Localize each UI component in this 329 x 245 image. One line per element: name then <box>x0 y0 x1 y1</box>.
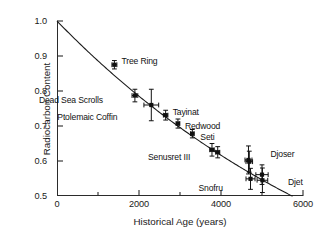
y-tick-label: 0.6 <box>35 156 47 166</box>
y-axis-ticks: 0.50.60.70.80.91.0 <box>0 21 52 196</box>
y-tick-label: 1.0 <box>35 16 47 26</box>
data-point-label: Ptolemaic Coffin <box>57 113 117 122</box>
data-point-label: Senusret III <box>148 153 190 162</box>
data-point-label: Dead Sea Scrolls <box>39 96 103 105</box>
y-tick-label: 0.5 <box>35 191 47 201</box>
data-point-label: Djet <box>288 178 303 187</box>
x-axis-label: Historical Age (years) <box>57 216 303 227</box>
data-point-label: Redwood <box>185 122 220 131</box>
x-tick-label: 6000 <box>293 199 313 209</box>
data-point-label: Djoser <box>270 150 294 159</box>
data-point-label: Tree Ring <box>121 57 157 66</box>
x-tick-label: 4000 <box>211 199 231 209</box>
y-tick-label: 0.9 <box>35 51 47 61</box>
y-tick-label: 0.7 <box>35 121 47 131</box>
data-point-label: Seti <box>200 133 214 142</box>
x-tick-label: 0 <box>54 199 59 209</box>
x-tick-label: 2000 <box>129 199 149 209</box>
data-point-label: Snofru <box>199 184 223 193</box>
data-point-label: Tayinat <box>173 108 199 117</box>
radiocarbon-decay-chart: Radiocarbon Content 0.50.60.70.80.91.0 0… <box>0 0 329 245</box>
